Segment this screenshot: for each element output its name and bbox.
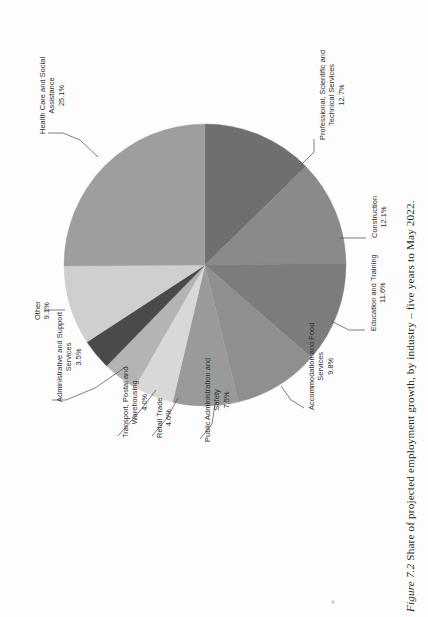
pie-label-professional-line2: Technical Services [327,50,336,140]
pie-label-education: Education and Training 11.6% [369,254,388,331]
pie-label-health: Health Care and Social Assistance 25.1% [38,57,66,134]
pie-label-retail-value: 4.6% [164,398,173,438]
pie-label-accommodation-value: 9.8% [326,323,335,410]
scan-artifact [331,600,335,604]
pie-label-construction-value: 12.1% [379,196,388,238]
pie-label-education-value: 11.6% [378,254,387,331]
pie-label-health-line1: Health Care and Social [38,57,47,134]
pie-label-admin-support-line2: Services [64,312,73,402]
pie-label-accommodation-line1: Accommodation and Food [307,323,316,410]
pie-label-professional-line1: Professional, Scientific and [318,50,327,140]
figure-stage: Professional, Scientific and Technical S… [0,0,428,617]
pie-label-retail-line1: Retail Trade [155,398,164,438]
pie-label-public-admin-line2: Safety [212,358,221,442]
pie-label-admin-support-line1: Administrative and Support [55,312,64,402]
pie-slice [64,124,205,266]
pie-label-transport-line2: Warehousing [130,367,139,438]
pie-label-construction: Construction 12.1% [370,196,389,238]
pie-label-professional: Professional, Scientific and Technical S… [318,50,346,140]
pie-label-public-admin-line1: Public Administration and [203,358,212,442]
pie-label-professional-value: 12.7% [337,50,346,140]
pie-label-other-line1: Other [33,301,42,320]
pie-label-accommodation: Accommodation and Food Services 9.8% [307,323,335,410]
pie-label-health-value: 25.1% [57,57,66,134]
pie-label-health-line2: Assistance [47,57,56,134]
pie-label-transport-value: 4.0% [140,367,149,438]
pie-label-other-value: 9.1% [42,301,51,320]
figure-caption: Figure 7.2 Share of projected employment… [404,200,416,612]
pie-label-public-admin-value: 7.5% [222,358,231,442]
pie-label-transport-line1: Transport, Postal and [121,367,130,438]
pie-label-other: Other 9.1% [33,301,52,320]
figure-caption-text: Share of projected employment growth, by… [404,200,416,560]
pie-label-construction-line1: Construction [370,196,379,238]
pie-label-retail: Retail Trade 4.6% [155,398,174,438]
pie-label-transport: Transport, Postal and Warehousing 4.0% [121,367,149,438]
pie-label-education-line1: Education and Training [369,254,378,331]
figure-caption-number: Figure 7.2 [404,564,416,612]
pie-label-public-admin: Public Administration and Safety 7.5% [203,358,231,442]
pie-label-admin-support: Administrative and Support Services 3.5% [55,312,83,402]
pie-label-admin-support-value: 3.5% [74,312,83,402]
pie-label-accommodation-line2: Services [316,323,325,410]
